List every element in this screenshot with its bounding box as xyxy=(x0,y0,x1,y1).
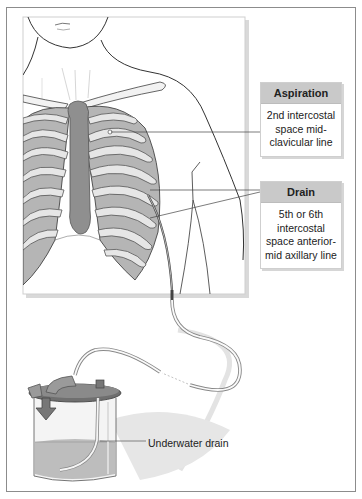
underwater-drain-label: Underwater drain xyxy=(148,437,229,449)
callout-aspiration-text: 2nd intercostal space mid-clavicular lin… xyxy=(261,104,341,156)
callout-aspiration: Aspiration 2nd intercostal space mid-cla… xyxy=(260,82,342,157)
callout-drain-heading: Drain xyxy=(261,182,341,203)
water xyxy=(35,439,115,479)
callout-aspiration-heading: Aspiration xyxy=(261,83,341,104)
sternum xyxy=(68,101,91,234)
drain-tube xyxy=(172,300,240,390)
underwater-seal-bottle xyxy=(28,376,121,481)
callout-drain-text: 5th or 6th intercostal space anterior-mi… xyxy=(261,203,341,268)
callout-drain: Drain 5th or 6th intercostal space anter… xyxy=(260,181,342,269)
